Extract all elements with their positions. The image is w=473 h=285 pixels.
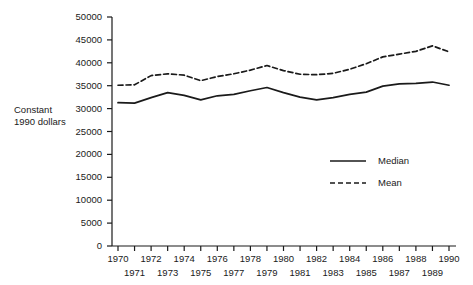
x-axis-tick-label: 1977	[219, 268, 249, 278]
x-axis-tick-label: 1979	[252, 268, 282, 278]
y-axis-tick-label: 0	[56, 241, 102, 251]
x-axis-tick-label: 1988	[401, 254, 431, 264]
x-axis-tick-label: 1980	[269, 254, 299, 264]
legend-swatches	[330, 161, 366, 183]
y-axis-ticks	[107, 17, 112, 246]
x-axis-tick-label: 1984	[335, 254, 365, 264]
x-axis-tick-label: 1975	[186, 268, 216, 278]
x-axis-tick-label: 1971	[120, 268, 150, 278]
x-axis-tick-label: 1974	[169, 254, 199, 264]
y-axis-tick-label: 5000	[56, 218, 102, 228]
x-axis-tick-label: 1987	[384, 268, 414, 278]
x-axis-tick-label: 1985	[351, 268, 381, 278]
y-axis-tick-label: 25000	[56, 127, 102, 137]
x-axis-tick-label: 1976	[202, 254, 232, 264]
x-axis-tick-label: 1972	[136, 254, 166, 264]
x-axis-tick-label: 1982	[302, 254, 332, 264]
y-axis-tick-label: 50000	[56, 12, 102, 22]
x-axis-tick-label: 1981	[285, 268, 315, 278]
y-axis-tick-label: 45000	[56, 35, 102, 45]
x-axis-tick-label: 1970	[103, 254, 133, 264]
y-axis-tick-label: 15000	[56, 172, 102, 182]
y-axis-tick-label: 35000	[56, 81, 102, 91]
x-axis-tick-label: 1983	[318, 268, 348, 278]
x-axis-ticks	[118, 246, 449, 251]
data-series-group	[118, 46, 449, 103]
x-axis-tick-label: 1986	[368, 254, 398, 264]
series-line-median	[118, 82, 449, 103]
y-axis-tick-label: 40000	[56, 58, 102, 68]
y-axis-tick-label: 10000	[56, 195, 102, 205]
x-axis-tick-label: 1989	[417, 268, 447, 278]
y-axis-tick-label: 20000	[56, 149, 102, 159]
y-axis-tick-label: 30000	[56, 104, 102, 114]
legend-label-mean: Mean	[378, 178, 402, 188]
x-axis-tick-label: 1978	[235, 254, 265, 264]
x-axis-tick-label: 1990	[434, 254, 464, 264]
line-chart: Constant 1990 dollars 050001000015000200…	[0, 0, 473, 285]
x-axis-tick-label: 1973	[153, 268, 183, 278]
series-line-mean	[118, 46, 449, 85]
legend-label-median: Median	[378, 156, 409, 166]
axis-lines	[112, 17, 456, 246]
